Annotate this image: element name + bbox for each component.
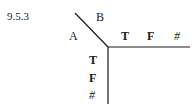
column-variable-label: B [96,11,104,23]
row-value-t: T [89,54,97,66]
row-value-hash: # [89,89,95,101]
row-variable-label: A [69,30,78,42]
column-value-f: F [147,30,154,42]
row-value-f: F [89,72,96,84]
column-value-hash: # [174,30,180,42]
column-value-t: T [121,30,129,42]
